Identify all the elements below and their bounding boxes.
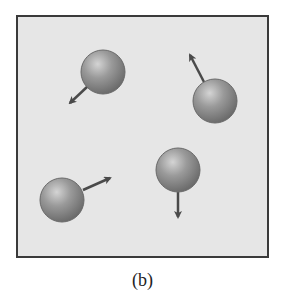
- figure-caption: (b): [0, 270, 285, 291]
- particle-sphere: [81, 50, 125, 94]
- particle-sphere: [156, 148, 200, 192]
- particle-sphere: [193, 79, 237, 123]
- particle-sphere: [40, 178, 84, 222]
- gas-particles-diagram: [0, 0, 285, 302]
